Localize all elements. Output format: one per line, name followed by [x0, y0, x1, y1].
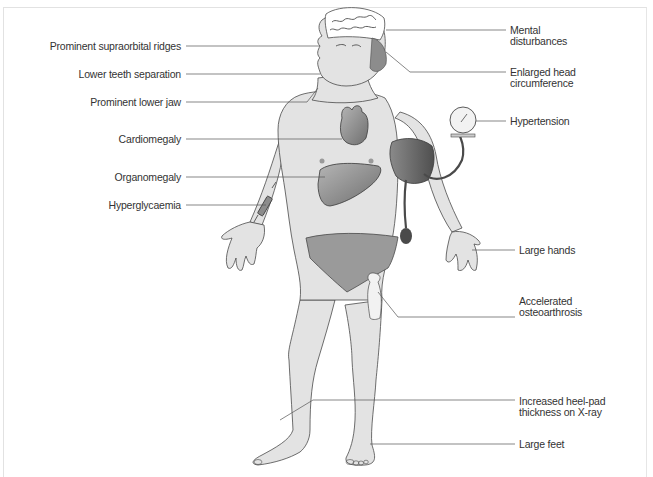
label-lower-jaw: Prominent lower jaw — [90, 97, 181, 108]
label-teeth-separation: Lower teeth separation — [79, 69, 181, 80]
bulb-icon — [400, 228, 412, 244]
femur-bone-icon — [368, 273, 382, 320]
label-mental-disturbances: Mental disturbances — [510, 25, 567, 47]
label-large-feet: Large feet — [519, 439, 564, 450]
label-heel-pad: Increased heel-pad thickness on X-ray — [519, 396, 605, 418]
nipple-left — [320, 159, 325, 164]
gauge-icon — [450, 107, 476, 137]
label-cardiomegaly: Cardiomegaly — [119, 134, 181, 145]
label-large-hands: Large hands — [519, 245, 575, 256]
nipple-right — [369, 159, 374, 164]
label-supraorbital: Prominent supraorbital ridges — [50, 41, 181, 52]
legs — [253, 300, 382, 465]
label-hyperglycaemia: Hyperglycaemia — [109, 200, 181, 211]
head — [318, 8, 387, 86]
label-hypertension: Hypertension — [510, 116, 569, 127]
label-osteoarthrosis: Accelerated osteoarthrosis — [519, 296, 582, 318]
label-organomegaly: Organomegaly — [115, 172, 181, 183]
label-head-circumference: Enlarged head circumference — [510, 67, 576, 89]
